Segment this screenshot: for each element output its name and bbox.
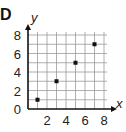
data-point — [74, 61, 78, 65]
data-point — [93, 42, 97, 46]
x-axis-label: x — [115, 96, 123, 111]
scatter-chart: xy246802468 — [0, 0, 126, 132]
y-tick-label: 2 — [14, 84, 21, 99]
y-tick-label: 4 — [14, 65, 21, 80]
x-tick-label: 4 — [62, 113, 69, 128]
y-tick-label: 8 — [14, 28, 21, 43]
y-axis-label: y — [30, 10, 39, 25]
data-point — [55, 79, 59, 83]
y-tick-label: 6 — [14, 47, 21, 62]
y-tick-label: 0 — [14, 102, 21, 117]
x-tick-label: 8 — [100, 113, 107, 128]
data-point — [36, 98, 40, 102]
x-tick-label: 6 — [81, 113, 88, 128]
x-tick-label: 2 — [43, 113, 50, 128]
